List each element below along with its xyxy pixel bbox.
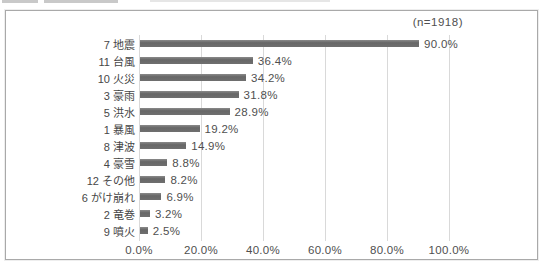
bar-row: 2 竜巻3.2%	[6, 205, 537, 222]
bar-row: 8 津波14.9%	[6, 137, 537, 154]
bar	[140, 74, 246, 81]
value-label: 34.2%	[251, 72, 285, 84]
x-tick-label: 40.0%	[246, 244, 280, 256]
bar-row: 9 噴火2.5%	[6, 222, 537, 239]
bar	[140, 193, 161, 200]
x-tick-label: 20.0%	[184, 244, 218, 256]
bar-row: 4 豪雪8.8%	[6, 154, 537, 171]
chart-frame: (n=1918) 7 地震90.0%11 台風36.4%10 火災34.2%3 …	[5, 10, 538, 260]
bar	[140, 57, 253, 64]
category-label: 1 暴風	[6, 121, 140, 137]
x-axis: 0.0%20.0%40.0%60.0%80.0%100.0%	[139, 244, 451, 258]
category-label: 6 がけ崩れ	[6, 189, 140, 205]
category-label: 7 地震	[6, 36, 140, 52]
bar-row: 5 洪水28.9%	[6, 103, 537, 120]
bar	[140, 40, 419, 47]
value-label: 90.0%	[424, 38, 458, 50]
value-label: 14.9%	[191, 140, 225, 152]
value-label: 28.9%	[235, 106, 269, 118]
value-label: 36.4%	[258, 55, 292, 67]
value-label: 31.8%	[244, 89, 278, 101]
value-label: 19.2%	[205, 123, 239, 135]
category-label: 5 洪水	[6, 104, 140, 120]
bar	[140, 210, 150, 217]
x-tick-label: 60.0%	[308, 244, 342, 256]
category-label: 10 火災	[6, 70, 140, 86]
bar	[140, 142, 186, 149]
cropped-text-remnant	[2, 0, 38, 3]
category-label: 2 竜巻	[6, 206, 140, 222]
bar-row: 12 その他8.2%	[6, 171, 537, 188]
category-label: 11 台風	[6, 53, 140, 69]
x-tick-label: 100.0%	[429, 244, 470, 256]
bar	[140, 159, 167, 166]
category-label: 3 豪雨	[6, 87, 140, 103]
bar-row: 11 台風36.4%	[6, 52, 537, 69]
category-label: 12 その他	[6, 172, 140, 188]
bar-rows: 7 地震90.0%11 台風36.4%10 火災34.2%3 豪雨31.8%5 …	[6, 35, 537, 239]
bar	[140, 227, 148, 234]
bar	[140, 176, 165, 183]
value-label: 3.2%	[155, 208, 182, 220]
category-label: 8 津波	[6, 138, 140, 154]
bar-row: 6 がけ崩れ6.9%	[6, 188, 537, 205]
bar	[140, 108, 230, 115]
bar-row: 7 地震90.0%	[6, 35, 537, 52]
cropped-text-remnant	[44, 0, 118, 3]
category-label: 9 噴火	[6, 223, 140, 239]
bar-row: 10 火災34.2%	[6, 69, 537, 86]
bar-row: 3 豪雨31.8%	[6, 86, 537, 103]
value-label: 8.2%	[170, 174, 197, 186]
bar-row: 1 暴風19.2%	[6, 120, 537, 137]
bar	[140, 91, 239, 98]
category-label: 4 豪雪	[6, 155, 140, 171]
value-label: 8.8%	[172, 157, 199, 169]
sample-size-annotation: (n=1918)	[413, 16, 463, 28]
x-tick-label: 0.0%	[125, 244, 152, 256]
cropped-text-remnant	[150, 0, 330, 2]
value-label: 2.5%	[153, 225, 180, 237]
x-tick-label: 80.0%	[370, 244, 404, 256]
value-label: 6.9%	[166, 191, 193, 203]
bar	[140, 125, 200, 132]
